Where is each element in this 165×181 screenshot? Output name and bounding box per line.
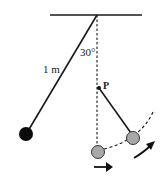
peg-label: P [103,80,109,91]
angle-label: 30° [80,46,95,58]
bob-lowest [92,146,105,159]
pendulum-string-initial [28,15,97,131]
pendulum-diagram: 30° 1 m P [0,0,165,181]
pendulum-string-after-peg [99,88,131,133]
length-label: 1 m [43,63,60,75]
bob-initial [19,127,33,141]
bob-swinging [127,132,140,145]
motion-arrow-bottom-icon [94,162,113,172]
